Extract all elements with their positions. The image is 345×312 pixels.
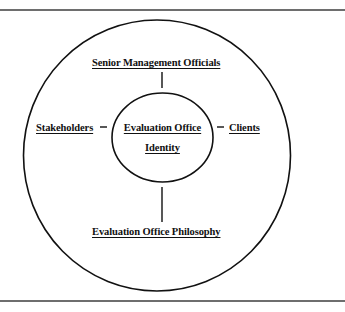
inner-circle — [112, 93, 213, 182]
diagram-canvas — [0, 0, 345, 312]
center-label-line2: Identity — [112, 142, 213, 154]
node-evaluation-office-philosophy: Evaluation Office Philosophy — [92, 226, 220, 238]
node-stakeholders: Stakeholders — [36, 122, 93, 134]
node-senior-management-officials: Senior Management Officials — [92, 57, 220, 69]
node-clients: Clients — [229, 122, 260, 134]
center-label-line1: Evaluation Office — [112, 122, 213, 134]
